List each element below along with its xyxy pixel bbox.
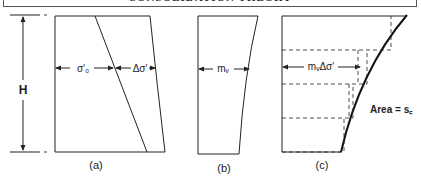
panel-b: mᵥ (b): [198, 16, 258, 174]
compressibility-label: mᵥ: [217, 63, 229, 74]
effective-stress-label: σ′₀: [77, 63, 89, 74]
height-dimension: H: [10, 15, 47, 152]
panel-a: σ′₀ Δσ′ (a): [55, 16, 165, 171]
caption-c: (c): [316, 159, 329, 171]
strain-label: mᵥΔσ′: [308, 61, 334, 72]
caption-a: (a): [89, 159, 102, 171]
stress-increment-label: Δσ′: [133, 63, 148, 74]
consolidation-diagram: H σ′₀ Δσ′ (a) mᵥ (b) mᵥΔσ′: [0, 0, 421, 182]
caption-b: (b): [217, 162, 230, 174]
height-label: H: [19, 83, 28, 97]
area-label: Area = s꜀: [370, 104, 413, 115]
panel-c: mᵥΔσ′ Area = s꜀ (c): [282, 15, 413, 171]
step-approximation: [282, 16, 391, 152]
